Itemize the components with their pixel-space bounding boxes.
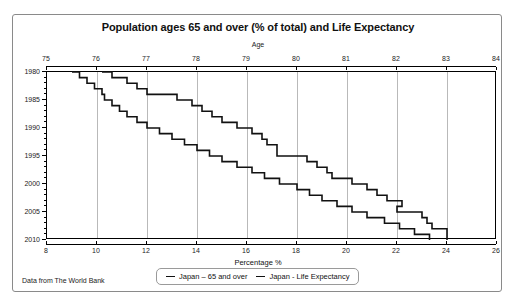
bottom-tick-label: 12: [142, 247, 150, 254]
legend-item-1[interactable]: Japan – 65 and over: [166, 272, 247, 281]
top-tick-mark: [446, 67, 447, 70]
series-line-1: [72, 72, 430, 240]
left-tick-mark-minor: [44, 82, 47, 83]
left-tick-mark-minor: [44, 161, 47, 162]
chart-legend: Japan – 65 and overJapan - Life Expectan…: [156, 268, 359, 285]
top-tick-mark: [496, 67, 497, 70]
left-tick-label: 1995: [13, 152, 40, 159]
bottom-tick-mark: [396, 241, 397, 244]
left-tick-mark-major: [42, 155, 46, 156]
left-tick-label: 1990: [13, 124, 40, 131]
left-tick-mark-minor: [44, 194, 47, 195]
top-tick-label: 84: [492, 55, 500, 62]
bottom-tick-label: 18: [292, 247, 300, 254]
bottom-tick-mark: [496, 241, 497, 244]
left-tick-mark-minor: [44, 222, 47, 223]
top-tick-label: 77: [142, 55, 150, 62]
series-lines: [47, 72, 497, 240]
left-tick-mark-minor: [44, 105, 47, 106]
top-tick-mark: [146, 67, 147, 70]
left-tick-mark-minor: [44, 133, 47, 134]
top-tick-label: 82: [392, 55, 400, 62]
top-tick-label: 79: [242, 55, 250, 62]
top-tick-label: 80: [292, 55, 300, 62]
bottom-tick-mark: [296, 241, 297, 244]
left-tick-mark-minor: [44, 144, 47, 145]
left-tick-mark-major: [42, 211, 46, 212]
top-tick-mark: [196, 67, 197, 70]
top-tick-label: 81: [342, 55, 350, 62]
plot-area: [46, 71, 496, 239]
legend-swatch-icon: [166, 276, 175, 278]
left-tick-mark-minor: [44, 200, 47, 201]
left-tick-mark-minor: [44, 110, 47, 111]
left-tick-mark-minor: [44, 172, 47, 173]
bottom-tick-mark: [346, 241, 347, 244]
left-tick-mark-minor: [44, 177, 47, 178]
top-axis-label: Age: [13, 41, 503, 48]
bottom-tick-mark: [146, 241, 147, 244]
bottom-tick-label: 10: [92, 247, 100, 254]
left-tick-mark-major: [42, 127, 46, 128]
top-tick-label: 83: [442, 55, 450, 62]
bottom-tick-mark: [46, 241, 47, 244]
bottom-tick-label: 24: [442, 247, 450, 254]
bottom-tick-label: 16: [242, 247, 250, 254]
bottom-tick-label: 22: [392, 247, 400, 254]
legend-item-2[interactable]: Japan - Life Expectancy: [256, 272, 349, 281]
top-tick-label: 75: [42, 55, 50, 62]
left-tick-mark-major: [42, 183, 46, 184]
series-line-2: [102, 72, 447, 240]
left-tick-mark-minor: [44, 77, 47, 78]
top-tick-mark: [96, 67, 97, 70]
left-tick-mark-minor: [44, 116, 47, 117]
left-tick-mark-minor: [44, 88, 47, 89]
left-tick-mark-minor: [44, 205, 47, 206]
bottom-tick-label: 20: [342, 247, 350, 254]
legend-swatch-icon: [256, 276, 265, 278]
legend-label: Japan – 65 and over: [179, 272, 247, 281]
left-tick-label: 1985: [13, 96, 40, 103]
left-tick-label: 2010: [13, 236, 40, 243]
bottom-tick-mark: [246, 241, 247, 244]
top-tick-label: 78: [192, 55, 200, 62]
bottom-tick-mark: [446, 241, 447, 244]
left-tick-mark-minor: [44, 166, 47, 167]
left-tick-mark-minor: [44, 121, 47, 122]
bottom-tick-mark: [196, 241, 197, 244]
bottom-tick-label: 14: [192, 247, 200, 254]
top-tick-mark: [296, 67, 297, 70]
top-tick-mark: [246, 67, 247, 70]
top-tick-mark: [46, 67, 47, 70]
left-tick-label: 1980: [13, 68, 40, 75]
top-tick-label: 76: [92, 55, 100, 62]
bottom-tick-mark: [96, 241, 97, 244]
bottom-tick-label: 8: [44, 247, 48, 254]
left-tick-label: 2000: [13, 180, 40, 187]
legend-label: Japan - Life Expectancy: [269, 272, 349, 281]
top-axis-rule: [46, 66, 496, 67]
bottom-axis-rule: [46, 244, 496, 245]
bottom-axis-label: Percentage %: [13, 258, 503, 267]
source-note: Data from The World Bank: [22, 277, 105, 284]
bottom-tick-label: 26: [492, 247, 500, 254]
top-tick-mark: [396, 67, 397, 70]
left-tick-mark-minor: [44, 138, 47, 139]
chart-title: Population ages 65 and over (% of total)…: [13, 21, 503, 33]
left-tick-mark-minor: [44, 149, 47, 150]
left-tick-mark-minor: [44, 93, 47, 94]
left-tick-mark-major: [42, 239, 46, 240]
left-tick-label: 2005: [13, 208, 40, 215]
chart-card: Population ages 65 and over (% of total)…: [12, 14, 502, 292]
left-tick-mark-minor: [44, 228, 47, 229]
left-tick-mark-minor: [44, 217, 47, 218]
top-tick-mark: [346, 67, 347, 70]
left-tick-mark-minor: [44, 189, 47, 190]
left-tick-mark-minor: [44, 233, 47, 234]
left-tick-mark-major: [42, 71, 46, 72]
left-tick-mark-major: [42, 99, 46, 100]
